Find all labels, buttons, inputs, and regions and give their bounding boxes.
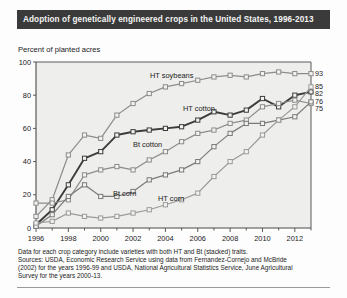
footnote-line-3: (2002) for the years 1996-99 and USDA, N… [18,264,336,272]
footnote-line-1: Data for each crop category include vari… [18,248,336,256]
data-point-ht-corn [163,203,167,207]
data-point-bt-corn [66,194,70,198]
data-point-bt-cotton [260,105,264,109]
data-point-ht-cotton [163,126,167,130]
data-point-bt-cotton [82,173,86,177]
data-point-bt-cotton [228,121,232,125]
data-point-ht-soybeans [131,101,135,105]
data-point-bt-cotton [50,201,54,205]
x-axis-tick-label: 2010 [254,234,270,243]
data-point-ht-corn [131,211,135,215]
footnote-line-2: Sources: USDA, Economic Research Service… [18,256,336,264]
data-point-ht-soybeans [82,133,86,137]
data-point-ht-soybeans [244,75,248,79]
data-point-bt-cotton [131,168,135,172]
bottom-divider [17,287,330,288]
data-point-ht-corn [115,214,119,218]
data-point-ht-corn [293,105,297,109]
x-axis-tick-label: 2002 [125,234,141,243]
data-point-bt-cotton [115,164,119,168]
y-axis-tick-label: 20 [23,190,31,199]
data-point-ht-soybeans [163,85,167,89]
y-axis-tick-label: 0 [27,224,31,233]
data-point-ht-cotton [115,133,119,137]
data-point-bt-corn [99,194,103,198]
x-axis-tick-label: 2004 [157,234,173,243]
data-point-ht-cotton [131,130,135,134]
data-point-bt-corn [179,168,183,172]
data-point-bt-cotton [147,158,151,162]
x-axis-tick-label: 2008 [222,234,238,243]
data-point-ht-soybeans [34,214,38,218]
data-point-bt-corn [244,121,248,125]
x-axis-tick-label: 2012 [287,234,303,243]
data-point-bt-corn [147,178,151,182]
series-label-bt-cotton: Bt cotton [133,140,162,149]
data-point-ht-corn [212,174,216,178]
data-point-ht-corn [277,118,281,122]
x-axis-tick-label: 2006 [190,234,206,243]
data-point-ht-corn [309,85,313,89]
data-point-bt-corn [196,160,200,164]
footnote-line-4: Survey for the years 2000-13. [18,272,336,280]
data-point-bt-corn [293,115,297,119]
chart-footnote: Data for each crop category include vari… [18,248,336,280]
series-end-label: 93 [315,69,323,78]
data-point-ht-corn [260,133,264,137]
data-point-ht-soybeans [196,78,200,82]
data-point-ht-cotton [309,90,313,94]
data-point-bt-corn [212,145,216,149]
data-point-ht-cotton [293,93,297,97]
data-point-ht-corn [50,219,54,223]
data-point-ht-soybeans [260,72,264,76]
x-axis-tick-label: 1998 [60,234,76,243]
plot-background [36,62,311,228]
data-point-ht-cotton [244,108,248,112]
data-point-ht-soybeans [293,72,297,76]
data-point-ht-soybeans [99,136,103,140]
data-point-ht-corn [82,214,86,218]
x-axis-tick-label: 2000 [92,234,108,243]
series-end-label: 75 [315,104,323,113]
data-point-bt-corn [82,183,86,187]
data-point-bt-corn [309,100,313,104]
data-point-ht-corn [99,216,103,220]
series-label-bt-corn: Bt corn [113,189,136,198]
data-point-ht-corn [34,221,38,225]
data-point-bt-corn [260,121,264,125]
data-point-bt-cotton [277,101,281,105]
data-point-bt-cotton [163,150,167,154]
data-point-ht-cotton [260,96,264,100]
data-point-ht-cotton [99,150,103,154]
data-point-ht-corn [66,211,70,215]
data-point-ht-soybeans [66,153,70,157]
data-point-ht-soybeans [212,75,216,79]
data-point-ht-soybeans [228,73,232,77]
data-point-ht-cotton [82,156,86,160]
x-axis-tick-label: 1996 [28,234,44,243]
data-point-ht-soybeans [147,91,151,95]
data-point-bt-corn [228,131,232,135]
data-point-ht-soybeans [277,70,281,74]
data-point-ht-cotton [228,113,232,117]
data-point-bt-cotton [179,140,183,144]
data-point-ht-corn [196,191,200,195]
data-point-ht-cotton [179,125,183,129]
series-label-ht-soybeans: HT soybeans [150,71,194,80]
data-point-bt-corn [163,173,167,177]
y-axis-tick-label: 80 [23,91,31,100]
data-point-bt-cotton [196,131,200,135]
data-point-ht-cotton [50,208,54,212]
data-point-ht-cotton [147,128,151,132]
data-point-ht-soybeans [115,113,119,117]
data-point-ht-corn [147,208,151,212]
series-label-ht-cotton: HT cotton [183,104,215,113]
y-axis-tick-label: 40 [23,157,31,166]
series-label-ht-corn: HT corn [158,194,184,203]
data-point-bt-cotton [293,98,297,102]
data-point-ht-cotton [66,183,70,187]
data-point-ht-corn [244,150,248,154]
data-point-ht-soybeans [309,72,313,76]
data-point-bt-corn [50,213,54,217]
data-point-bt-cotton [34,201,38,205]
